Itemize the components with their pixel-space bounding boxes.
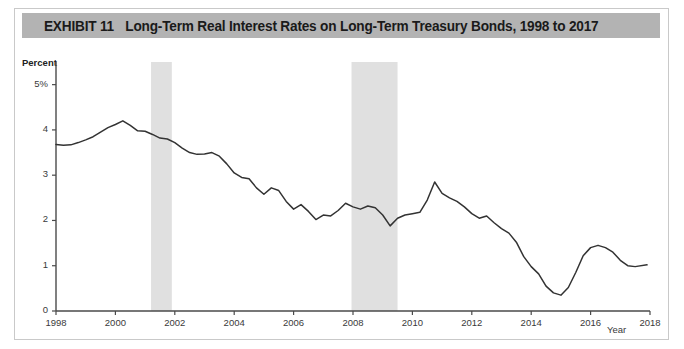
y-tick-label: 4 bbox=[22, 123, 48, 134]
y-axis-title: Percent bbox=[22, 57, 57, 68]
x-tick-label: 2006 bbox=[274, 317, 314, 328]
x-tick-label: 2008 bbox=[333, 317, 373, 328]
y-tick-label: 3 bbox=[22, 168, 48, 179]
x-tick-label: 2012 bbox=[452, 317, 492, 328]
exhibit-frame bbox=[14, 8, 669, 340]
x-tick-label: 2016 bbox=[571, 317, 611, 328]
y-tick-label: 2 bbox=[22, 213, 48, 224]
x-tick-label: 2014 bbox=[511, 317, 551, 328]
x-tick-label: 2018 bbox=[630, 317, 670, 328]
x-tick-label: 2010 bbox=[392, 317, 432, 328]
exhibit-number-label: EXHIBIT 11 bbox=[44, 18, 114, 34]
x-tick-label: 2004 bbox=[214, 317, 254, 328]
y-tick-label: 1 bbox=[22, 259, 48, 270]
exhibit-title-banner: EXHIBIT 11Long-Term Real Interest Rates … bbox=[22, 13, 660, 38]
x-tick-label: 2000 bbox=[95, 317, 135, 328]
y-tick-label: 0 bbox=[22, 304, 48, 315]
exhibit-title-text: Long-Term Real Interest Rates on Long-Te… bbox=[114, 18, 598, 34]
x-tick-label: 1998 bbox=[36, 317, 76, 328]
y-tick-label: 5% bbox=[22, 78, 48, 89]
x-tick-label: 2002 bbox=[155, 317, 195, 328]
